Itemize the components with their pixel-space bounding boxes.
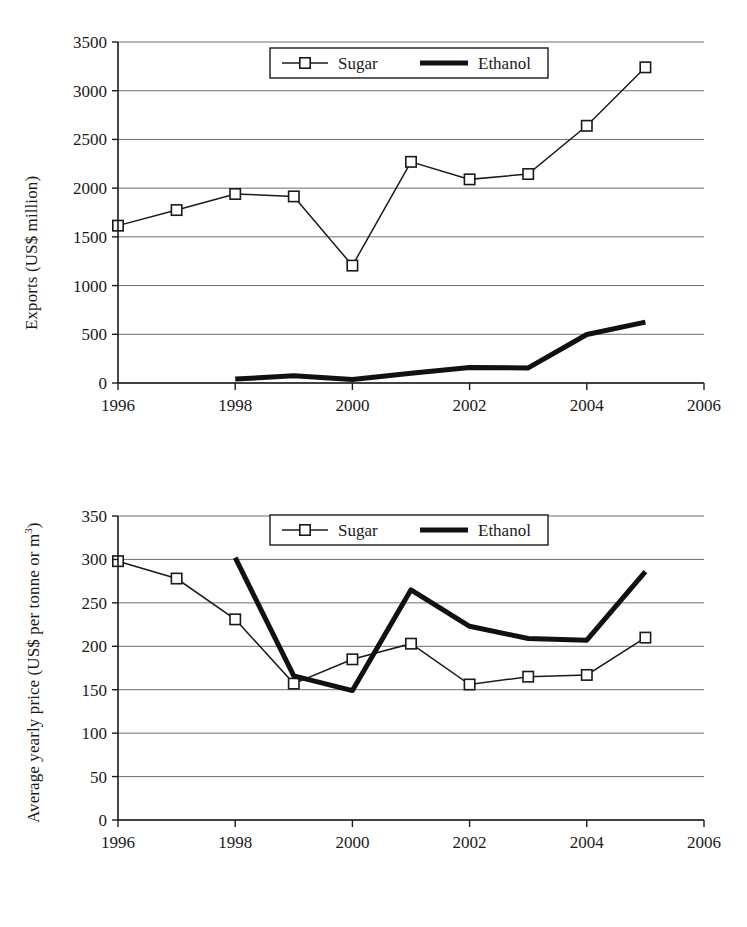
data-point-marker (171, 205, 181, 215)
y-tick-label: 250 (82, 594, 108, 613)
y-tick-label: 2500 (73, 130, 107, 149)
data-point-marker (640, 632, 650, 642)
x-tick-label: 2002 (453, 396, 487, 415)
y-axis-label-price-suffix: ) (24, 522, 43, 528)
y-tick-label: 0 (99, 811, 108, 830)
y-tick-label: 0 (99, 374, 108, 393)
data-point-marker (289, 191, 299, 201)
y-axis-label-price-superscript: 3 (22, 528, 34, 534)
x-tick-label: 2006 (687, 396, 721, 415)
series-line-ethanol (235, 322, 645, 379)
x-tick-label: 2002 (453, 833, 487, 852)
axes: 0501001502002503003501996199820002002200… (82, 507, 722, 852)
data-point-marker (406, 638, 416, 648)
y-tick-label: 350 (82, 507, 108, 526)
exports-plot: 0500100015002000250030003500199619982000… (0, 0, 747, 450)
legend-marker-sugar (300, 525, 310, 535)
x-tick-label: 2006 (687, 833, 721, 852)
y-axis-label-price-prefix: Average yearly price (US$ per tonne or m (24, 534, 43, 823)
legend-marker-sugar (300, 58, 310, 68)
gridlines (118, 42, 704, 383)
data-point-marker (347, 260, 357, 270)
series-ethanol (235, 322, 645, 379)
legend: SugarEthanol (270, 515, 548, 545)
chart-exports-panel: Exports (US$ million) 050010001500200025… (0, 0, 747, 450)
y-tick-label: 3000 (73, 82, 107, 101)
data-point-marker (464, 174, 474, 184)
data-point-marker (582, 670, 592, 680)
legend-label-sugar: Sugar (338, 54, 378, 73)
data-point-marker (640, 62, 650, 72)
data-point-marker (406, 157, 416, 167)
data-point-marker (230, 614, 240, 624)
y-tick-label: 1000 (73, 277, 107, 296)
x-tick-label: 2000 (335, 833, 369, 852)
data-point-marker (289, 678, 299, 688)
x-tick-label: 1998 (218, 833, 252, 852)
series-line-sugar (118, 67, 645, 265)
data-point-marker (523, 671, 533, 681)
legend: SugarEthanol (270, 48, 548, 78)
y-tick-label: 100 (82, 724, 108, 743)
data-point-marker (230, 189, 240, 199)
data-point-marker (347, 654, 357, 664)
x-tick-label: 1998 (218, 396, 252, 415)
x-tick-label: 2004 (570, 833, 605, 852)
y-axis-label-exports: Exports (US$ million) (22, 176, 42, 330)
legend-label-ethanol: Ethanol (478, 54, 531, 73)
y-tick-label: 300 (82, 550, 108, 569)
x-tick-label: 1996 (101, 396, 135, 415)
data-point-marker (171, 573, 181, 583)
y-tick-label: 1500 (73, 228, 107, 247)
y-tick-label: 2000 (73, 179, 107, 198)
data-point-marker (464, 679, 474, 689)
data-point-marker (523, 169, 533, 179)
y-tick-label: 500 (82, 325, 108, 344)
legend-label-ethanol: Ethanol (478, 521, 531, 540)
y-tick-label: 50 (90, 768, 107, 787)
series-sugar (113, 62, 651, 271)
series-line-sugar (118, 561, 645, 684)
y-tick-label: 3500 (73, 33, 107, 52)
y-tick-label: 200 (82, 637, 108, 656)
x-tick-label: 2000 (335, 396, 369, 415)
y-axis-label-price: Average yearly price (US$ per tonne or m… (22, 522, 44, 823)
y-tick-label: 150 (82, 681, 108, 700)
x-tick-label: 2004 (570, 396, 605, 415)
chart-price-panel: Average yearly price (US$ per tonne or m… (0, 468, 747, 888)
data-point-marker (582, 121, 592, 131)
x-tick-label: 1996 (101, 833, 135, 852)
series-sugar (113, 556, 651, 690)
price-plot: 0501001502002503003501996199820002002200… (0, 468, 747, 888)
gridlines (118, 516, 704, 820)
legend-label-sugar: Sugar (338, 521, 378, 540)
